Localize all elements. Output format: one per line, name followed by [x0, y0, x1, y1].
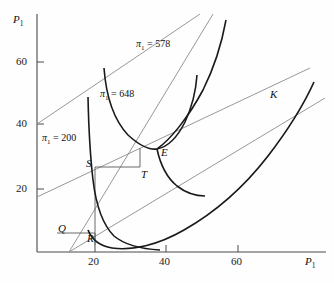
point-label-K: K — [270, 89, 277, 100]
ray-group — [37, 14, 325, 252]
curve-pi-648 — [104, 68, 197, 149]
point-label-R: R — [87, 233, 94, 244]
y-tick-label-20: 20 — [16, 183, 27, 194]
x-tick-label-60: 60 — [231, 256, 242, 267]
curve-label-pi-648: π1 = 648 — [100, 89, 134, 102]
y-axis-title: P1 — [13, 14, 23, 28]
x-tick-label-40: 40 — [159, 256, 170, 267]
y-tick-label-40: 40 — [16, 118, 27, 129]
isoprofit-curves — [88, 20, 314, 250]
axis-group — [37, 14, 326, 252]
curve-label-pi-578: π1 = 578 — [136, 39, 170, 52]
tangent-line-upper-left — [37, 14, 200, 124]
curve-label-pi-200: π1 = 200 — [42, 133, 76, 146]
construction-group — [57, 148, 140, 245]
isoprofit-figure: P1 P1 60 40 20 20 40 60 π1 = 200 π1 = 64… — [0, 0, 334, 283]
point-label-T: T — [141, 169, 147, 180]
y-tick-label-60: 60 — [16, 56, 27, 67]
point-label-S: S — [86, 158, 92, 169]
point-label-Q: Q — [58, 223, 66, 234]
x-tick-label-20: 20 — [88, 256, 99, 267]
x-axis-title: P1 — [305, 256, 315, 270]
point-label-E: E — [161, 147, 168, 158]
